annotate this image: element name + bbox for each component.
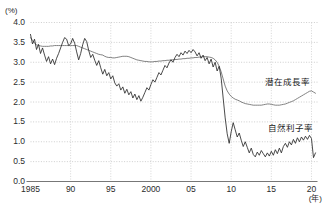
x-axis-tick-label: 1985 bbox=[14, 184, 48, 194]
y-axis-tick-label: 1.0 bbox=[3, 136, 25, 146]
y-axis-tick-label: 0.5 bbox=[3, 156, 25, 166]
series-line-2 bbox=[31, 34, 316, 157]
chart-container: (%) (年) 0.00.51.01.52.02.53.03.54.019859… bbox=[0, 0, 325, 209]
y-axis-unit-label: (%) bbox=[5, 6, 17, 15]
series-line-1 bbox=[31, 38, 316, 106]
x-axis-tick-label: 90 bbox=[54, 184, 88, 194]
x-axis-tick-label: 20 bbox=[294, 184, 325, 194]
y-axis-tick-label: 4.0 bbox=[3, 17, 25, 27]
y-axis-tick-label: 3.5 bbox=[3, 37, 25, 47]
chart-plot bbox=[0, 0, 325, 209]
x-axis-tick-label: 2000 bbox=[134, 184, 168, 194]
y-axis-tick-label: 3.0 bbox=[3, 57, 25, 67]
y-axis-tick-label: 1.5 bbox=[3, 116, 25, 126]
series-label-1: 潜在成長率 bbox=[265, 75, 310, 87]
x-axis-tick-label: 15 bbox=[254, 184, 288, 194]
series-label-2: 自然利子率 bbox=[268, 121, 313, 133]
y-axis-tick-label: 2.5 bbox=[3, 77, 25, 87]
x-axis-tick-label: 95 bbox=[94, 184, 128, 194]
y-axis-tick-label: 2.0 bbox=[3, 97, 25, 107]
x-axis-tick-label: 10 bbox=[214, 184, 248, 194]
x-axis-tick-label: 05 bbox=[174, 184, 208, 194]
